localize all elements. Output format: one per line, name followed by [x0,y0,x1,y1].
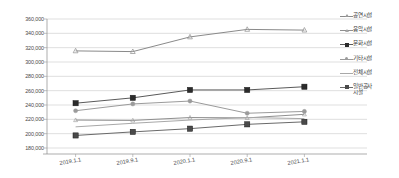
legend-label: 공연시설 [353,12,372,18]
data-point-marker [130,129,135,134]
data-point-marker [187,126,192,131]
y-axis-tick-label: 200,000 [0,131,44,137]
chart-legend: 공연시설음악시설문화시설기타시설전체시설일반공사 시설 [340,12,399,97]
legend-label: 기타시설 [353,55,372,61]
data-point-marker [245,122,250,127]
legend-label: 일반공사 시설 [353,83,372,96]
y-axis-tick-label: 240,000 [0,102,44,108]
legend-swatch-icon [340,13,353,20]
series-5 [73,119,307,138]
data-point-marker [188,99,192,103]
legend-swatch-icon [340,56,353,63]
data-point-marker [131,102,135,106]
y-axis-tick-label: 260,000 [0,88,44,94]
data-point-marker [73,133,78,138]
legend-label: 전체시설 [353,69,372,75]
legend-swatch-icon [340,41,353,48]
series-0 [73,27,307,54]
legend-swatch-icon [340,27,353,34]
y-axis-tick-label: 360,000 [0,16,44,22]
y-axis-tick-label: 280,000 [0,73,44,79]
y-axis-tick-label: 320,000 [0,45,44,51]
legend-item[interactable]: 일반공사 시설 [340,83,399,92]
legend-swatch-icon [340,84,353,91]
legend-item[interactable]: 전체시설 [340,69,399,78]
series-line [76,29,305,51]
data-point-marker [245,111,249,115]
data-point-marker [245,87,250,92]
y-axis-tick-label: 180,000 [0,145,44,151]
legend-item[interactable]: 기타시설 [340,55,399,64]
y-axis-tick-label: 340,000 [0,30,44,36]
data-point-marker [302,119,307,124]
data-point-marker [130,95,135,100]
data-point-marker [74,109,78,113]
legend-item[interactable]: 음악시설 [340,26,399,35]
data-point-marker [302,84,307,89]
line-chart: 360,000340,000320,000300,000280,000260,0… [0,0,399,178]
legend-label: 음악시설 [353,26,372,32]
data-point-marker [73,101,78,106]
data-point-marker [302,109,306,113]
legend-item[interactable]: 공연시설 [340,12,399,21]
legend-label: 문화시설 [353,40,372,46]
y-axis-tick-label: 220,000 [0,116,44,122]
series-3 [74,99,307,115]
data-point-marker [187,87,192,92]
y-axis-tick-label: 300,000 [0,59,44,65]
legend-swatch-icon [340,70,353,77]
legend-item[interactable]: 문화시설 [340,40,399,49]
